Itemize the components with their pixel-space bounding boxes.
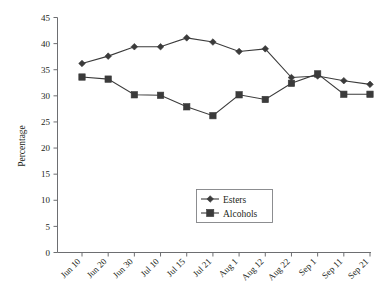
series-line bbox=[82, 38, 370, 84]
x-tick-label: Jul 15 bbox=[165, 256, 188, 279]
x-tick-label: Jul 10 bbox=[138, 256, 161, 279]
square-icon bbox=[210, 112, 216, 118]
square-icon bbox=[105, 76, 111, 82]
diamond-icon bbox=[131, 43, 138, 50]
square-icon bbox=[207, 209, 214, 216]
series-line bbox=[82, 74, 370, 116]
series-layer bbox=[79, 35, 374, 119]
x-axis-ticks bbox=[82, 253, 370, 257]
y-tick-label: 0 bbox=[46, 248, 51, 258]
x-tick-label: Jul 21 bbox=[191, 256, 213, 278]
x-axis-labels: Jun 10Jun 20Jun 30Jul 10Jul 15Jul 21Aug … bbox=[59, 256, 371, 282]
square-icon bbox=[262, 96, 268, 102]
square-icon bbox=[314, 71, 320, 77]
diamond-icon bbox=[79, 60, 86, 67]
x-tick-label: Jun 20 bbox=[85, 256, 109, 280]
y-tick-label: 15 bbox=[41, 169, 51, 179]
legend-label-esters: Esters bbox=[223, 195, 247, 205]
x-tick-label: Aug 22 bbox=[266, 256, 292, 282]
line-chart: Percentage 051015202530354045 Jun 10Jun … bbox=[0, 0, 391, 299]
square-icon bbox=[131, 92, 137, 98]
series-esters bbox=[79, 35, 374, 88]
y-tick-label: 25 bbox=[41, 117, 51, 127]
y-tick-label: 40 bbox=[41, 39, 51, 49]
square-icon bbox=[79, 74, 85, 80]
diamond-icon bbox=[157, 43, 164, 50]
y-tick-label: 35 bbox=[41, 65, 51, 75]
x-tick-label: Aug 1 bbox=[217, 256, 240, 279]
square-icon bbox=[184, 104, 190, 110]
chart-container: Percentage 051015202530354045 Jun 10Jun … bbox=[0, 0, 391, 299]
square-icon bbox=[157, 92, 163, 98]
y-tick-label: 45 bbox=[41, 13, 51, 23]
chart-legend[interactable]: Esters Alcohols bbox=[197, 190, 273, 223]
y-axis-ticks: 051015202530354045 bbox=[41, 13, 58, 258]
diamond-icon bbox=[210, 39, 217, 46]
square-icon bbox=[341, 91, 347, 97]
x-tick-label: Sep 1 bbox=[297, 256, 318, 277]
x-tick-label: Jun 10 bbox=[59, 256, 83, 280]
square-icon bbox=[288, 80, 294, 86]
legend-label-alcohols: Alcohols bbox=[223, 209, 258, 219]
diamond-icon bbox=[183, 35, 190, 42]
diamond-icon bbox=[105, 53, 112, 60]
x-tick-label: Jun 30 bbox=[111, 256, 135, 280]
square-icon bbox=[236, 92, 242, 98]
x-tick-label: Aug 12 bbox=[240, 256, 266, 282]
diamond-icon bbox=[367, 81, 374, 88]
diamond-icon bbox=[341, 77, 348, 84]
y-tick-label: 20 bbox=[41, 143, 51, 153]
y-axis-title: Percentage bbox=[17, 125, 27, 167]
y-tick-label: 10 bbox=[41, 195, 51, 205]
y-tick-label: 30 bbox=[41, 91, 51, 101]
x-tick-label: Sep 11 bbox=[320, 256, 344, 280]
square-icon bbox=[367, 91, 373, 97]
y-tick-label: 5 bbox=[46, 222, 51, 232]
diamond-icon bbox=[236, 48, 243, 55]
x-tick-label: Sep 21 bbox=[346, 256, 371, 281]
